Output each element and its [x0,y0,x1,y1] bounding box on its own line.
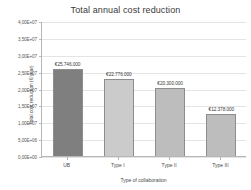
y-tick-label: 1,50E+07 [18,104,37,109]
bar-value-label: €25.746.000 [55,62,81,67]
x-tick-mark [67,157,68,160]
y-tick-label: 0,00E+00 [18,155,37,160]
y-tick-label: 5,00E+06 [18,138,37,143]
x-tick-label: Type II [144,162,195,168]
y-tick-label: 3,50E+07 [18,36,37,41]
bar-value-label: €20.300.000 [157,81,183,86]
bar[interactable] [53,69,83,156]
bars-layer: €25.746.000€22.776.000€20.300.000€12.378… [42,22,246,156]
chart-container: Total annual cost reduction Total cost r… [0,0,251,190]
bar-group: €22.776.000 [104,22,134,156]
bar-value-label: €22.776.000 [106,72,132,77]
gridline [42,157,246,158]
bar[interactable] [206,114,236,156]
bar[interactable] [104,79,134,156]
bar[interactable] [155,88,185,157]
x-axis-title: Type of collaboration [41,177,246,183]
x-tick-label: Type I [92,162,143,168]
x-tick-mark [169,157,170,160]
x-tick-mark [118,157,119,160]
y-tick-label: 1,00E+07 [18,121,37,126]
y-tick-label: 4,00E+07 [18,20,37,25]
chart-title: Total annual cost reduction [0,5,251,15]
y-tick-label: 3,00E+07 [18,53,37,58]
bar-value-label: €12.378.000 [209,107,235,112]
bar-group: €12.378.000 [206,22,236,156]
y-tick-label: 2,50E+07 [18,70,37,75]
bar-group: €25.746.000 [53,22,83,156]
plot-area: 4,00E+073,50E+073,00E+072,50E+072,00E+07… [41,22,246,157]
x-tick-mark [220,157,221,160]
x-tick-label: Type III [195,162,246,168]
y-tick-mark [39,157,42,158]
y-tick-label: 2,00E+07 [18,87,37,92]
bar-group: €20.300.000 [155,22,185,156]
x-tick-label: UB [41,162,92,168]
